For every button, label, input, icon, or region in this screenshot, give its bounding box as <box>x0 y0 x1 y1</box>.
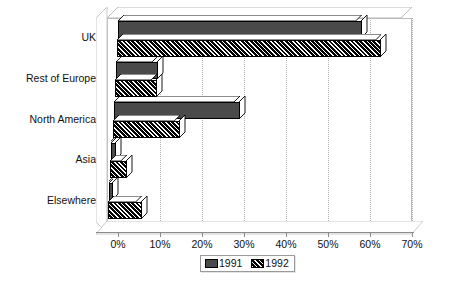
category-label: Asia <box>76 154 96 165</box>
bar-side-face <box>156 74 163 97</box>
legend-entry-1991[interactable]: 1991 <box>205 258 242 269</box>
axis-line <box>96 232 414 233</box>
value-tick-label: 10% <box>149 238 170 250</box>
legend-label: 1992 <box>265 258 288 269</box>
left-wall-shape <box>96 7 108 233</box>
bar-1992-elsewhere <box>108 202 142 219</box>
legend-entry-1992[interactable]: 1992 <box>251 258 288 269</box>
bar-1992-uk <box>117 40 382 57</box>
value-tick <box>328 232 329 237</box>
value-tick <box>412 232 413 237</box>
plot-area <box>107 18 412 232</box>
bar-side-face <box>239 96 246 119</box>
bar-chart: UKRest of EuropeNorth AmericaAsiaElsewhe… <box>0 0 461 288</box>
value-tick <box>202 232 203 237</box>
value-tick <box>244 232 245 237</box>
value-tick <box>370 232 371 237</box>
value-tick-label: 50% <box>317 238 338 250</box>
value-tick <box>118 232 119 237</box>
category-label: Rest of Europe <box>26 73 96 84</box>
bar-side-face <box>380 34 387 57</box>
bar-side-face <box>179 115 186 138</box>
value-tick-label: 60% <box>359 238 380 250</box>
legend-label: 1991 <box>219 258 242 269</box>
value-tick-label: 70% <box>401 238 422 250</box>
bar-1992-asia <box>110 161 127 178</box>
bar-side-face <box>141 196 148 219</box>
bar-front-face <box>115 80 157 97</box>
category-label: North America <box>29 114 96 125</box>
bar-1992-rest-of-europe <box>115 80 157 97</box>
value-axis: 0%10%20%30%40%50%60%70% <box>96 232 426 244</box>
value-tick-label: 30% <box>233 238 254 250</box>
bar-side-face <box>126 155 133 178</box>
value-tick-label: 40% <box>275 238 296 250</box>
value-tick <box>160 232 161 237</box>
category-axis: UKRest of EuropeNorth AmericaAsiaElsewhe… <box>0 18 96 228</box>
category-label: Elsewhere <box>47 195 96 206</box>
legend: 19911992 <box>200 255 295 272</box>
value-tick <box>286 232 287 237</box>
bar-front-face <box>113 121 180 138</box>
value-tick-label: 20% <box>191 238 212 250</box>
bar-front-face <box>110 161 127 178</box>
bar-1992-north-america <box>113 121 180 138</box>
legend-swatch <box>251 259 264 268</box>
value-tick-label: 0% <box>110 238 125 250</box>
gridline <box>412 18 413 221</box>
bar-front-face <box>117 40 382 57</box>
category-label: UK <box>81 32 96 43</box>
legend-swatch <box>205 259 218 268</box>
bar-front-face <box>108 202 142 219</box>
